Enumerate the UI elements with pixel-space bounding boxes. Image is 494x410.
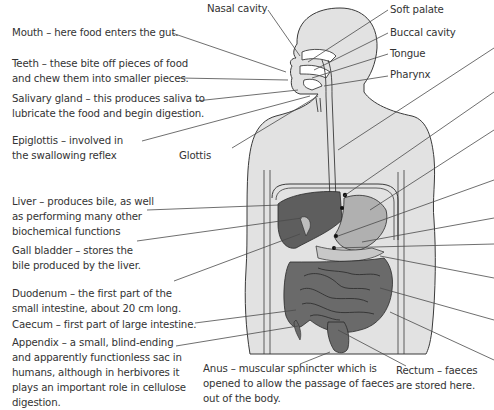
label-line: lubricate the food and begin digestion. — [12, 106, 205, 121]
large-intestine — [284, 258, 393, 332]
label-salivary-gland: Salivary gland – this produces saliva to… — [12, 91, 205, 121]
label-line: Buccal cavity — [390, 25, 456, 40]
label-mouth: Mouth – here food enters the gut. — [12, 25, 178, 40]
label-gall-bladder: Gall bladder – stores the bile produced … — [12, 243, 141, 273]
label-line: as performing many other — [12, 209, 154, 224]
label-line: Soft palate — [390, 2, 444, 17]
label-line: digestion. — [12, 395, 186, 410]
label-line: Glottis — [179, 148, 211, 163]
label-rectum: Rectum – faeces are stored here. — [396, 363, 477, 393]
label-liver: Liver – produces bile, as well as perfor… — [12, 194, 154, 239]
label-line: out of the body. — [203, 391, 394, 406]
label-glottis: Glottis — [179, 148, 211, 163]
label-line: and apparently functionless sac in — [12, 350, 186, 365]
label-line: Teeth – these bite off pieces of food — [12, 56, 189, 71]
label-line: small intestine, about 20 cm long. — [12, 301, 181, 316]
label-teeth: Teeth – these bite off pieces of food an… — [12, 56, 189, 86]
label-line: opened to allow the passage of faeces — [203, 376, 394, 391]
label-line: the swallowing reflex — [12, 148, 123, 163]
label-epiglottis: Epiglottis – involved in the swallowing … — [12, 133, 123, 163]
label-line: Mouth – here food enters the gut. — [12, 25, 178, 40]
label-soft-palate: Soft palate — [390, 2, 444, 17]
label-line: are stored here. — [396, 378, 477, 393]
label-line: Appendix – a small, blind-ending — [12, 335, 186, 350]
label-tongue: Tongue — [390, 46, 425, 61]
label-line: Tongue — [390, 46, 425, 61]
label-line: humans, although in herbivores it — [12, 365, 186, 380]
label-line: Caecum – first part of large intestine. — [12, 317, 196, 332]
label-nasal-cavity: Nasal cavity — [207, 1, 267, 16]
label-anus: Anus – muscular sphincter which is opene… — [203, 361, 394, 406]
label-line: Pharynx — [390, 67, 431, 82]
label-pharynx: Pharynx — [390, 67, 431, 82]
label-line: bile produced by the liver. — [12, 258, 141, 273]
label-line: Nasal cavity — [207, 1, 267, 16]
label-appendix: Appendix – a small, blind-ending and app… — [12, 335, 186, 410]
label-line: Gall bladder – stores the — [12, 243, 141, 258]
label-line: and chew them into smaller pieces. — [12, 71, 189, 86]
label-caecum: Caecum – first part of large intestine. — [12, 317, 196, 332]
label-duodenum: Duodenum – the first part of the small i… — [12, 286, 181, 316]
label-line: Anus – muscular sphincter which is — [203, 361, 394, 376]
label-buccal-cavity: Buccal cavity — [390, 25, 456, 40]
label-line: Salivary gland – this produces saliva to — [12, 91, 205, 106]
label-line: biochemical functions — [12, 224, 154, 239]
label-line: plays an important role in cellulose — [12, 380, 186, 395]
label-line: Rectum – faeces — [396, 363, 477, 378]
label-line: Duodenum – the first part of the — [12, 286, 181, 301]
label-line: Epiglottis – involved in — [12, 133, 123, 148]
label-line: Liver – produces bile, as well — [12, 194, 154, 209]
